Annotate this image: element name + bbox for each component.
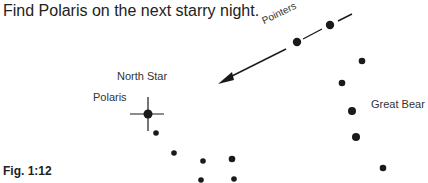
polaris-star [130, 97, 164, 131]
north-star-label: North Star [117, 70, 167, 82]
polaris-label: Polaris [93, 91, 127, 103]
direction-arrow [218, 49, 286, 84]
pointer-star-merak [293, 38, 301, 46]
little-bear-stars [153, 130, 237, 183]
great-bear-stars [339, 58, 387, 172]
star-diagram [0, 0, 428, 183]
figure-caption: Fig. 1:12 [3, 164, 52, 178]
pointer-star-dubhe [326, 21, 334, 29]
great-bear-label: Great Bear [371, 98, 425, 110]
